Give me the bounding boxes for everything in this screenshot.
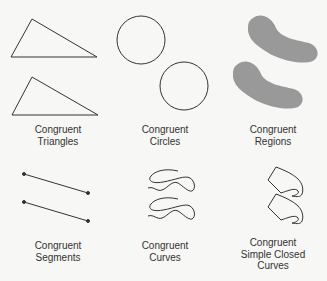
caption-line: Triangles xyxy=(8,136,108,148)
caption-line: Congruent xyxy=(223,237,323,249)
congruent-triangles xyxy=(11,19,98,115)
caption-triangles: Congruent Triangles xyxy=(8,124,108,147)
caption-circles: Congruent Circles xyxy=(115,124,215,147)
caption-line: Segments xyxy=(8,252,108,264)
congruent-curves xyxy=(148,170,194,219)
caption-closed-curves: Congruent Simple Closed Curves xyxy=(223,237,323,272)
congruent-circles xyxy=(117,16,208,110)
caption-line: Congruent xyxy=(115,124,215,136)
congruent-segments xyxy=(23,173,90,223)
caption-curves: Congruent Curves xyxy=(115,240,215,263)
caption-line: Congruent xyxy=(223,124,323,136)
caption-regions: Congruent Regions xyxy=(223,124,323,147)
caption-line: Curves xyxy=(115,252,215,264)
caption-line: Regions xyxy=(223,136,323,148)
caption-segments: Congruent Segments xyxy=(8,240,108,263)
caption-line: Congruent xyxy=(115,240,215,252)
caption-line: Circles xyxy=(115,136,215,148)
caption-line: Congruent xyxy=(8,124,108,136)
caption-line: Congruent xyxy=(8,240,108,252)
congruent-simple-closed-curves xyxy=(268,167,303,224)
congruent-regions xyxy=(233,16,318,109)
caption-line: Curves xyxy=(223,260,323,272)
caption-line: Simple Closed xyxy=(223,249,323,261)
